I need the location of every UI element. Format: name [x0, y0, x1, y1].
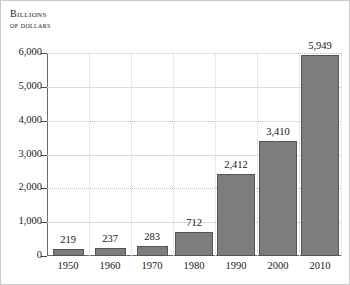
bar-value-label: 5,949	[294, 40, 346, 51]
bar-value-label: 3,410	[252, 126, 304, 137]
gridline-vertical	[257, 53, 258, 256]
gridline-vertical	[341, 53, 342, 256]
gridline-vertical	[131, 53, 132, 256]
bar	[175, 232, 213, 256]
y-axis-tick	[41, 188, 47, 189]
y-axis-tick-label: 4,000	[1, 114, 42, 125]
bar	[301, 55, 339, 256]
gridline-vertical	[89, 53, 90, 256]
chart-axis-title-line2: of dollars	[10, 20, 51, 31]
bar-value-label: 2,412	[210, 159, 262, 170]
plot-area: 2192372837122,4123,4105,949	[47, 53, 341, 256]
gridline-horizontal	[47, 121, 341, 122]
bar	[259, 141, 297, 256]
y-axis-tick-label: 0	[1, 249, 42, 260]
y-axis-tick-label: 5,000	[1, 80, 42, 91]
chart-axis-title: Billions of dollars	[10, 8, 51, 30]
gridline-vertical	[299, 53, 300, 256]
chart-figure: Billions of dollars 2192372837122,4123,4…	[0, 0, 350, 285]
bar	[217, 174, 255, 256]
gridline-horizontal	[47, 53, 341, 54]
y-axis-tick-label: 3,000	[1, 148, 42, 159]
y-axis-tick-label: 1,000	[1, 215, 42, 226]
bar	[95, 248, 126, 256]
gridline-horizontal	[47, 87, 341, 88]
chart-axis-title-line1: Billions	[10, 8, 51, 20]
bar-value-label: 283	[126, 231, 178, 242]
y-axis-tick	[41, 256, 47, 257]
bar-value-label: 712	[168, 217, 220, 228]
y-axis-tick-label: 2,000	[1, 181, 42, 192]
y-axis-tick-label: 6,000	[1, 46, 42, 57]
bar	[53, 249, 84, 256]
y-axis-tick	[41, 53, 47, 54]
x-axis-labels: 1950196019701980199020002010	[47, 260, 341, 280]
y-axis-tick	[41, 121, 47, 122]
x-axis-tick-label: 2010	[294, 260, 346, 271]
y-axis-tick	[41, 87, 47, 88]
y-axis-tick	[41, 222, 47, 223]
y-axis-tick	[41, 155, 47, 156]
bar	[137, 246, 168, 256]
